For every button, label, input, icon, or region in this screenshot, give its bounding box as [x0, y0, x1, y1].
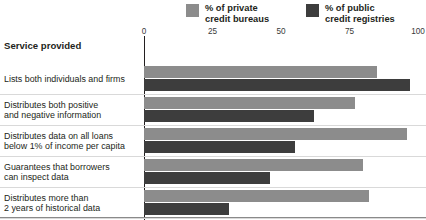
plot-area: Service provided 0255075100 Lists both i…: [0, 26, 426, 220]
row-label-line: Lists both individuals and firms: [4, 74, 138, 85]
x-axis-tick-labels: 0255075100: [0, 26, 426, 40]
row-label: Distributes more than2 years of historic…: [4, 188, 138, 218]
row-label: Distributes data on all loansbelow 1% of…: [4, 126, 138, 156]
row-label: Guarantees that borrowerscan inspect dat…: [4, 157, 138, 187]
bar-private-credit-bureaus: [144, 66, 377, 78]
bar-public-credit-registries: [144, 203, 229, 215]
row-label-line: Distributes data on all loans: [4, 131, 138, 142]
row-bars: [144, 219, 426, 220]
row-label-line: Distributes more than: [4, 193, 138, 204]
chart-legend: % of private credit bureaus % of public …: [0, 0, 426, 26]
row-label: Lists both individuals and firms: [4, 64, 138, 94]
chart-row: Distributes data on all loansbelow 1% of…: [0, 125, 426, 156]
bar-private-credit-bureaus: [144, 128, 407, 140]
legend-label-public-line1: % of public: [325, 3, 395, 14]
row-label-line: can inspect data: [4, 172, 138, 183]
row-label-line: 2 years of historical data: [4, 203, 138, 214]
legend-label-private-line1: % of private: [205, 3, 269, 14]
bar-private-credit-bureaus: [144, 159, 363, 171]
row-label-line: below 1% of income per capita: [4, 141, 138, 152]
row-bars: [144, 157, 426, 187]
column-header-service-provided: Service provided: [0, 40, 81, 52]
chart-row: Distributes data from retailers,trade cr…: [0, 218, 426, 220]
x-axis-tick-25: 25: [208, 27, 217, 36]
chart-row: Distributes more than2 years of historic…: [0, 187, 426, 218]
x-axis-tick-75: 75: [345, 27, 354, 36]
row-label-line: Distributes both positive: [4, 100, 138, 111]
bar-public-credit-registries: [144, 110, 314, 122]
x-axis-tick-100: 100: [411, 27, 425, 36]
row-label: Distributes both positiveand negative in…: [4, 95, 138, 125]
row-bars: [144, 64, 426, 94]
bar-private-credit-bureaus: [144, 97, 355, 109]
row-bars: [144, 188, 426, 218]
legend-swatch-public-icon: [306, 4, 319, 17]
legend-label-private: % of private credit bureaus: [205, 3, 269, 24]
row-label-line: and negative information: [4, 110, 138, 121]
legend-swatch-private-icon: [186, 4, 199, 17]
bar-private-credit-bureaus: [144, 190, 369, 202]
row-bars: [144, 95, 426, 125]
bar-public-credit-registries: [144, 141, 295, 153]
bar-public-credit-registries: [144, 172, 270, 184]
row-label-line: Guarantees that borrowers: [4, 162, 138, 173]
legend-item-private-credit-bureaus: % of private credit bureaus: [186, 3, 269, 24]
x-axis-tick-50: 50: [276, 27, 285, 36]
legend-item-public-credit-registries: % of public credit registries: [306, 3, 395, 24]
chart-rows: Lists both individuals and firmsDistribu…: [0, 64, 426, 220]
chart-baseline-rule: [0, 217, 426, 218]
row-bars: [144, 126, 426, 156]
x-axis-tick-0: 0: [142, 27, 147, 36]
legend-label-private-line2: credit bureaus: [205, 14, 269, 25]
bar-public-credit-registries: [144, 79, 410, 91]
legend-label-public-line2: credit registries: [325, 14, 395, 25]
chart-row: Guarantees that borrowerscan inspect dat…: [0, 156, 426, 187]
credit-information-bar-chart: % of private credit bureaus % of public …: [0, 0, 426, 220]
row-label: Distributes data from retailers,trade cr…: [4, 219, 138, 220]
chart-row: Distributes both positiveand negative in…: [0, 94, 426, 125]
legend-label-public: % of public credit registries: [325, 3, 395, 24]
chart-row: Lists both individuals and firms: [0, 64, 426, 94]
